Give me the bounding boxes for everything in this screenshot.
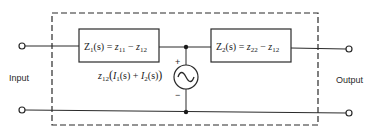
top-wire-output (291, 48, 346, 49)
input-terminal-top (19, 43, 25, 49)
input-label: Input (9, 73, 30, 83)
output-terminal-bottom (346, 110, 352, 116)
circuit-diagram: Z1(s) = z11 − z12 Z2(s) = z22 − z12 + − … (0, 0, 376, 135)
input-terminal-bottom (19, 107, 25, 113)
output-label: Output (336, 75, 364, 85)
source-minus-sign: − (175, 90, 180, 100)
output-terminal-top (346, 46, 352, 52)
source-expression: z12(I1(s) + I2(s)) (97, 68, 162, 83)
junction-dot-top (184, 45, 188, 49)
source-plus-sign: + (175, 57, 180, 67)
junction-dot-bottom (184, 110, 188, 114)
